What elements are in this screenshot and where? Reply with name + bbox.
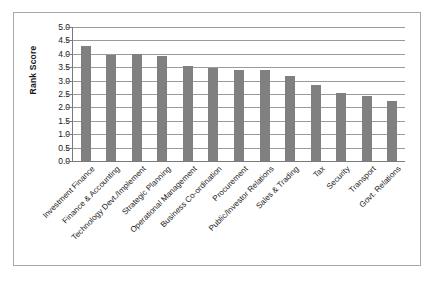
x-axis-category-label: Tax bbox=[312, 165, 326, 179]
bar bbox=[183, 66, 193, 161]
y-axis-tick-mark bbox=[66, 40, 73, 41]
chart-plot-area: Rank Score 5.04.54.03.53.02.52.01.51.00.… bbox=[14, 13, 420, 265]
bar-plot bbox=[73, 27, 405, 161]
bar bbox=[132, 54, 142, 161]
x-axis-baseline bbox=[73, 161, 405, 162]
chart-frame: Rank Score 5.04.54.03.53.02.52.01.51.00.… bbox=[13, 12, 421, 266]
y-axis-tick-labels: 5.04.54.03.53.02.52.01.51.00.50.0 bbox=[32, 24, 70, 161]
y-axis-tick-mark bbox=[66, 134, 73, 135]
y-axis-tick-mark bbox=[66, 67, 73, 68]
bar bbox=[387, 101, 397, 161]
bar bbox=[208, 68, 218, 161]
bar bbox=[285, 76, 295, 161]
bar bbox=[157, 56, 167, 161]
y-axis-tick-mark bbox=[66, 121, 73, 122]
y-axis-tick-mark bbox=[66, 107, 73, 108]
y-axis-tick-mark bbox=[66, 54, 73, 55]
x-axis-category-labels: Investment FinanceFinance & AccountingTe… bbox=[14, 163, 420, 263]
y-axis-tick-mark bbox=[66, 27, 73, 28]
bar bbox=[260, 70, 270, 161]
y-axis-tick-mark bbox=[66, 148, 73, 149]
y-axis-tick-mark bbox=[66, 81, 73, 82]
y-axis-tick-mark bbox=[66, 161, 73, 162]
bar bbox=[234, 70, 244, 161]
bar bbox=[106, 55, 116, 161]
bar bbox=[311, 85, 321, 161]
bar bbox=[336, 93, 346, 161]
bar bbox=[362, 96, 372, 161]
bar bbox=[81, 46, 91, 161]
y-axis-tick-mark bbox=[66, 94, 73, 95]
bar-series bbox=[73, 27, 405, 161]
